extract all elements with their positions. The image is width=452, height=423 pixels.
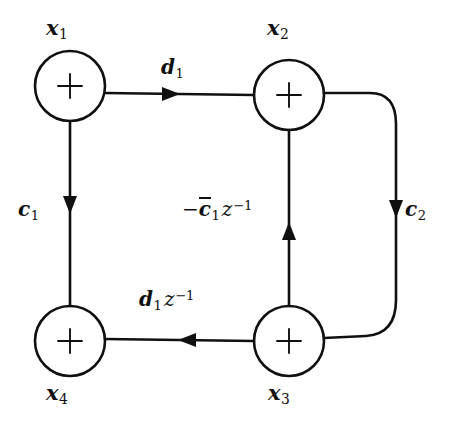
- node-label-x2: x2: [267, 17, 289, 42]
- macron-over-c: c: [199, 199, 211, 219]
- arrowhead-x2-to-x3: [389, 200, 403, 218]
- edge-line-x2-to-x3: [324, 93, 396, 338]
- edge-label-c1: c1: [18, 199, 39, 222]
- edge-label-d1: d1: [161, 57, 184, 80]
- edge-label-c2: c2: [405, 199, 426, 222]
- edge-label-minus-cbar1-z-inv: −c1z−1: [182, 199, 252, 222]
- arrowhead-x3-to-x4: [178, 333, 196, 347]
- arrowhead-x1-to-x4: [63, 196, 77, 214]
- arrowhead-x3-to-x2: [282, 222, 296, 240]
- macron-bar: [199, 197, 211, 199]
- node-label-x1: x1: [46, 17, 68, 42]
- edge-label-d1-z-inv: d1z−1: [139, 289, 194, 312]
- arrowhead-x1-to-x2: [162, 87, 180, 101]
- signal-flow-diagram: x1 x2 x4 x3 d1 c1 c2 −c1z−1 d1z−1: [0, 0, 452, 423]
- node-label-x3: x3: [268, 382, 290, 407]
- node-label-x4: x4: [46, 382, 68, 407]
